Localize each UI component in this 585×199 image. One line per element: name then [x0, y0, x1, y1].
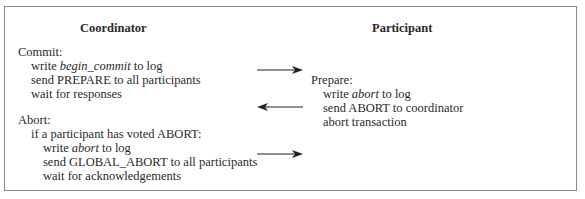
abort-step: write abort to log [43, 141, 131, 155]
arrow-left-icon [257, 102, 303, 112]
abort-label: Abort: [18, 113, 51, 127]
abort-step: wait for acknowledgements [43, 169, 181, 183]
prepare-step: abort transaction [323, 115, 407, 129]
prepare-step: write abort to log [323, 87, 411, 101]
abort-step: send GLOBAL_ABORT to all participants [43, 155, 257, 169]
commit-step: write begin_commit to log [31, 59, 163, 73]
arrow-right-icon [257, 65, 303, 75]
abort-condition: if a participant has voted ABORT: [31, 127, 201, 141]
arrow-right-icon [257, 149, 303, 159]
commit-step: wait for responses [31, 87, 122, 101]
coordinator-title: Coordinator [80, 21, 147, 36]
participant-title: Participant [372, 21, 432, 36]
prepare-label: Prepare: [311, 73, 353, 87]
commit-step: send PREPARE to all participants [31, 73, 201, 87]
commit-label: Commit: [18, 45, 62, 59]
prepare-step: send ABORT to coordinator [323, 101, 463, 115]
